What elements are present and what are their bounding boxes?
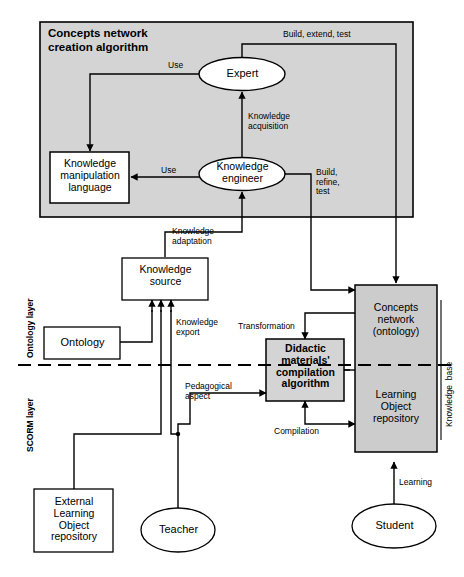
knowledge-base-label: Knowledge base — [445, 362, 455, 427]
concepts-network-label: Concepts network (ontology) — [357, 302, 435, 337]
lo-repository-label: Learning Object repository — [357, 389, 435, 424]
algorithm-group-title: Concepts network creation algorithm — [48, 26, 208, 55]
edge-label-build-extend-test: Build, extend, test — [283, 30, 351, 40]
edge-label-learning: Learning — [399, 478, 432, 488]
edge-label-compilation: Compilation — [274, 427, 319, 437]
edge-ontology-to-source — [120, 310, 152, 342]
edge-label-knowledge-acquisition: Knowledge acquisition — [248, 112, 290, 131]
diagram-canvas: Concepts network creation algorithm Expe… — [0, 0, 464, 577]
layer-label-ontology: Ontology layer — [26, 298, 36, 358]
edge-compilation — [305, 411, 347, 424]
ontology-label: Ontology — [46, 336, 119, 348]
student-label: Student — [353, 519, 436, 531]
knowledge-source-label: Knowledge source — [124, 264, 207, 288]
edge-label-use-expert: Use — [168, 61, 183, 71]
kml-label: Knowledge manipulation language — [52, 158, 128, 193]
edge-label-knowledge-adaptation: Knowledge adaptation — [172, 227, 214, 246]
knowledge-engineer-label: Knowledge engineer — [199, 161, 286, 185]
edge-label-transformation: Transformation — [238, 322, 295, 332]
edge-transformation — [305, 313, 355, 331]
edge-label-use-engineer: Use — [161, 166, 176, 176]
didactic-algorithm-label: Didactic materials' compilation algorith… — [268, 343, 343, 390]
edge-label-build-refine-test: Build, refine, test — [316, 168, 340, 197]
edge-junction-dot — [176, 432, 180, 436]
layer-label-scorm: SCORM layer — [26, 398, 36, 452]
edge-label-knowledge-export: Knowledge export — [176, 318, 218, 337]
edge-teacher-to-source — [171, 310, 178, 508]
external-lo-repository-label: External Learning Object repository — [36, 496, 112, 543]
diagram-vector-layer — [0, 0, 464, 577]
edge-label-pedagogical-aspect: Pedagogical aspect — [185, 382, 232, 401]
teacher-label: Teacher — [142, 523, 215, 535]
expert-label: Expert — [200, 67, 285, 79]
